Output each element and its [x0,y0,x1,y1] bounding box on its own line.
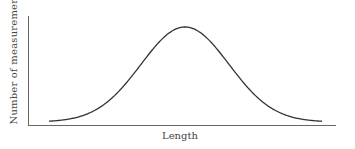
x-axis-label: Length [150,130,210,141]
bell-curve-chart [0,0,355,149]
distribution-curve [49,27,322,121]
y-axis-label: Number of measurements [8,15,19,125]
